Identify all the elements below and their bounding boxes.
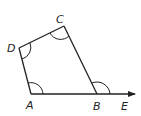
label-e: E	[121, 100, 128, 113]
quadrilateral-diagram: D C A B E	[0, 0, 141, 116]
side-dc	[19, 26, 64, 48]
angle-arc-c	[50, 33, 69, 39]
label-d: D	[7, 42, 15, 55]
label-a: A	[25, 99, 34, 112]
side-da	[19, 48, 31, 94]
label-c: C	[56, 13, 64, 26]
label-b: B	[93, 100, 101, 113]
